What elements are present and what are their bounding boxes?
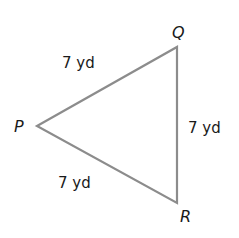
side-label-qr: 7 yd (188, 119, 221, 137)
vertex-label-q: Q (172, 23, 185, 42)
vertex-label-r: R (180, 207, 191, 226)
triangle-diagram: Q P R 7 yd 7 yd 7 yd (0, 0, 239, 238)
vertex-label-p: P (14, 117, 24, 136)
side-label-pr: 7 yd (58, 174, 91, 192)
side-label-pq: 7 yd (62, 54, 95, 72)
